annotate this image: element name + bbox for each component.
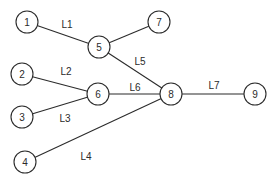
node-label: 9 bbox=[252, 89, 258, 100]
edge-label-l5: L5 bbox=[134, 56, 146, 67]
node-9: 9 bbox=[244, 83, 266, 105]
edge-2-6 bbox=[22, 74, 98, 94]
edge-label-l1: L1 bbox=[61, 19, 73, 30]
edge-label-l4: L4 bbox=[80, 151, 92, 162]
node-2: 2 bbox=[11, 63, 33, 85]
node-label: 4 bbox=[22, 157, 28, 168]
node-5: 5 bbox=[88, 36, 110, 58]
edge-label-l2: L2 bbox=[60, 66, 72, 77]
node-3: 3 bbox=[11, 106, 33, 128]
node-label: 5 bbox=[96, 42, 102, 53]
node-8: 8 bbox=[160, 83, 182, 105]
node-7: 7 bbox=[148, 11, 170, 33]
edge-label-l6: L6 bbox=[129, 82, 141, 93]
node-1: 1 bbox=[16, 11, 38, 33]
node-label: 2 bbox=[19, 69, 25, 80]
node-label: 1 bbox=[24, 17, 30, 28]
node-label: 6 bbox=[95, 89, 101, 100]
node-6: 6 bbox=[87, 83, 109, 105]
node-label: 7 bbox=[156, 17, 162, 28]
node-label: 8 bbox=[168, 89, 174, 100]
node-4: 4 bbox=[14, 151, 36, 173]
node-label: 3 bbox=[19, 112, 25, 123]
edge-label-l7: L7 bbox=[208, 80, 220, 91]
edge-label-l3: L3 bbox=[59, 113, 71, 124]
network-diagram: L1L2L3L4L5L6L7 123456789 bbox=[0, 0, 280, 181]
